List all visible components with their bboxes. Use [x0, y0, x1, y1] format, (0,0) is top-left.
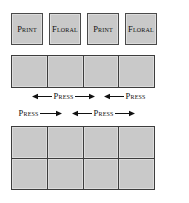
- piecing-diagram: Print Floral Print Floral Press: [0, 0, 189, 203]
- press-annotation-left: Press: [32, 90, 98, 103]
- strip-cell: [84, 56, 120, 87]
- press-annotation-right: Press: [104, 90, 159, 103]
- block-row: [12, 159, 154, 190]
- fabric-square-print-1: Print: [11, 13, 43, 45]
- press-label: Press: [17, 109, 40, 118]
- cut-squares-row: Print Floral Print Floral: [11, 13, 157, 45]
- fabric-square-label: Floral: [128, 25, 154, 34]
- block-cell: [84, 127, 120, 158]
- press-annotation-left: Press: [17, 107, 72, 120]
- press-label: Press: [92, 109, 115, 118]
- press-directions-above-grid: Press Press: [0, 107, 189, 120]
- block-cell: [48, 159, 84, 190]
- press-label: Press: [52, 92, 75, 101]
- fabric-square-label: Print: [93, 25, 113, 34]
- block-row: [12, 127, 154, 159]
- press-annotation-right: Press: [72, 107, 138, 120]
- sewn-strip: [11, 55, 155, 88]
- block-cell: [84, 159, 120, 190]
- strip-cell: [12, 56, 48, 87]
- strip-cell: [48, 56, 84, 87]
- arrow-left-icon: [104, 93, 124, 100]
- arrow-right-icon: [40, 110, 62, 117]
- arrow-left-icon: [32, 93, 52, 100]
- press-directions-below-strip: Press Press: [0, 90, 189, 103]
- fabric-square-floral-1: Floral: [49, 13, 81, 45]
- arrow-right-icon: [75, 93, 95, 100]
- block-cell: [119, 159, 154, 190]
- block-cell: [119, 127, 154, 158]
- fabric-square-print-2: Print: [87, 13, 119, 45]
- block-cell: [12, 159, 48, 190]
- strip-cell: [119, 56, 154, 87]
- fabric-square-floral-2: Floral: [125, 13, 157, 45]
- press-label: Press: [124, 92, 147, 101]
- arrow-left-icon: [72, 110, 92, 117]
- block-cell: [48, 127, 84, 158]
- fabric-square-label: Floral: [52, 25, 78, 34]
- arrow-right-icon: [115, 110, 135, 117]
- assembled-block: [11, 126, 155, 190]
- block-cell: [12, 127, 48, 158]
- fabric-square-label: Print: [17, 25, 37, 34]
